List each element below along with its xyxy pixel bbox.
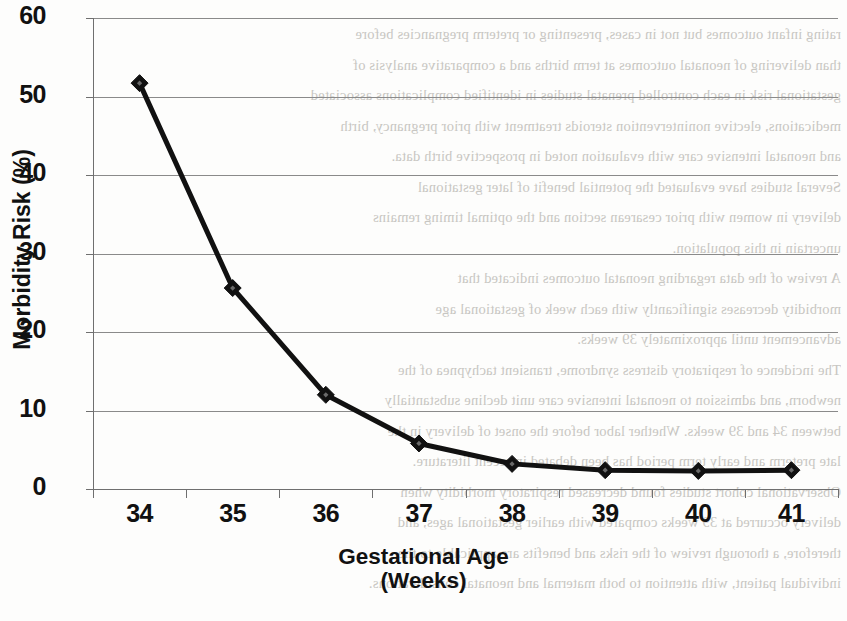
x-tick-label-41: 41 (746, 499, 836, 528)
series-line (140, 83, 792, 471)
x-tick-mark-0 (93, 489, 94, 498)
plot-area (93, 18, 838, 489)
x-tick-label-38: 38 (467, 499, 557, 528)
y-tick-label-60: 60 (0, 1, 46, 30)
x-tick-mark-7 (745, 489, 746, 498)
x-tick-label-37: 37 (374, 499, 464, 528)
y-axis-line (93, 18, 94, 489)
x-axis-title-line1: Gestational Age (338, 544, 508, 569)
x-tick-label-40: 40 (653, 499, 743, 528)
y-tick-label-0: 0 (0, 472, 46, 501)
y-tick-mark-20 (86, 332, 93, 333)
x-tick-mark-8 (838, 489, 839, 498)
y-tick-mark-50 (86, 97, 93, 98)
x-tick-mark-6 (652, 489, 653, 498)
x-tick-mark-5 (559, 489, 560, 498)
x-tick-label-35: 35 (188, 499, 278, 528)
line-chart: 0102030405060 Morbidity Risk (%) 3435363… (0, 0, 847, 621)
x-tick-mark-4 (466, 489, 467, 498)
y-tick-mark-0 (86, 489, 93, 490)
x-axis-title-line2: (Weeks) (0, 569, 847, 593)
x-tick-mark-3 (372, 489, 373, 498)
y-tick-mark-10 (86, 411, 93, 412)
x-tick-mark-2 (279, 489, 280, 498)
series-morbidity-risk (93, 18, 838, 489)
y-axis-title: Morbidity Risk (%) (9, 60, 36, 440)
x-tick-mark-1 (186, 489, 187, 498)
y-tick-mark-30 (86, 254, 93, 255)
x-tick-label-34: 34 (95, 499, 185, 528)
y-tick-mark-60 (86, 18, 93, 19)
x-tick-label-39: 39 (560, 499, 650, 528)
x-tick-label-36: 36 (281, 499, 371, 528)
y-tick-mark-40 (86, 175, 93, 176)
x-axis-title: Gestational Age (Weeks) (0, 545, 847, 594)
